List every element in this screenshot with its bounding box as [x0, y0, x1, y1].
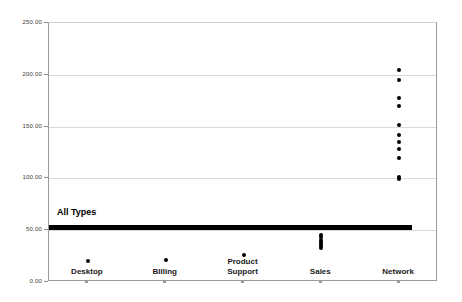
data-point — [397, 177, 401, 181]
gridline — [49, 178, 436, 179]
plot-area: All Types — [48, 22, 437, 281]
data-point — [397, 133, 401, 137]
x-axis-tick-mark — [397, 280, 400, 283]
data-point — [86, 259, 90, 263]
x-axis-category-label-3: Product Support — [227, 257, 258, 277]
gridline — [49, 127, 436, 128]
gridline — [49, 230, 436, 231]
data-point — [397, 68, 401, 72]
y-axis-tick-label: 200.00 — [0, 71, 42, 77]
y-axis-tick-mark — [44, 281, 48, 282]
data-point — [397, 156, 401, 160]
data-point — [397, 147, 401, 151]
y-axis-tick-label: 100.00 — [0, 174, 42, 180]
x-axis-category-label-2: BIlling — [152, 267, 176, 277]
data-point — [164, 258, 168, 262]
x-axis-tick-mark — [163, 280, 166, 283]
data-point — [397, 78, 401, 82]
data-point — [397, 96, 401, 100]
all-types-label: All Types — [57, 207, 96, 217]
x-axis-tick-mark — [85, 280, 88, 283]
data-point — [397, 140, 401, 144]
all-types-reference-line — [49, 225, 412, 230]
x-axis-tick-mark — [319, 280, 322, 283]
x-axis-category-label-1: Desktop — [71, 267, 103, 277]
y-axis-tick-label: 150.00 — [0, 123, 42, 129]
x-axis-category-label-5: Network — [382, 267, 414, 277]
gridline — [49, 75, 436, 76]
data-point — [397, 123, 401, 127]
x-axis-category-label-4: Sales — [310, 267, 331, 277]
data-point — [397, 104, 401, 108]
y-axis-tick-label: 0.00 — [0, 278, 42, 284]
y-axis-tick-label: 250.00 — [0, 19, 42, 25]
y-axis-tick-label: 50.00 — [0, 226, 42, 232]
scatter-chart: 0.0050.00100.00150.00200.00250.00 All Ty… — [0, 0, 462, 302]
x-axis-tick-mark — [241, 280, 244, 283]
data-point — [319, 246, 323, 250]
